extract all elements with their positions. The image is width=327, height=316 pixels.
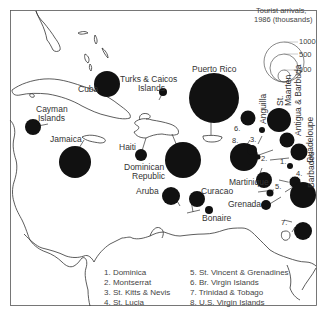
- bubble-puerto-rico: [189, 73, 239, 123]
- bahamas-island: [102, 48, 108, 58]
- label-haiti: Haiti: [119, 142, 136, 152]
- hispaniola-coastline: [134, 119, 179, 138]
- isle-of-youth: [30, 94, 35, 98]
- marker-8: 8.: [232, 136, 238, 145]
- bahamas-island: [85, 54, 89, 63]
- key-item: 6. Br. Virgin Islands: [190, 278, 259, 287]
- bubble-br-virgin-islands: [241, 111, 256, 126]
- key-item: 2. Montserrat: [104, 278, 152, 287]
- bubble-st-maarten: [267, 108, 291, 132]
- puerto-rico-island: [203, 135, 222, 142]
- legend-title-line2: 1986 (thousands): [254, 15, 313, 24]
- label-grenada: Grenada: [228, 199, 261, 209]
- jamaica-island: [82, 135, 105, 143]
- key-item: 1. Dominica: [104, 268, 147, 277]
- bahamas-island: [94, 35, 97, 44]
- marker-2: 2.: [261, 154, 267, 163]
- label-dominican-line2: Republic: [132, 171, 166, 181]
- caribbean-islands-coast: [287, 265, 300, 300]
- marker-1: 1.: [280, 157, 286, 166]
- legend-value-1000: 1000: [299, 37, 316, 46]
- marker-6: 6.: [234, 124, 240, 133]
- label-anguilla: Anguilla: [258, 93, 268, 124]
- label-cayman-line2: Islands: [38, 113, 65, 123]
- venezuela-gulf: [150, 227, 163, 238]
- florida-coastline: [36, 11, 60, 52]
- trinidad-island: [281, 231, 290, 240]
- numbered-key: 1. Dominica 2. Montserrat 3. St. Kitts &…: [104, 268, 289, 307]
- label-bonaire: Bonaire: [202, 213, 232, 223]
- label-barbados: Barbados: [306, 152, 316, 188]
- bubble-grenada: [261, 200, 271, 210]
- label-puerto-rico: Puerto Rico: [192, 64, 237, 74]
- caribbean-tourism-map: Tourist arrivals, 1986 (thousands) 1000 …: [0, 0, 327, 316]
- bubble-dominica: [287, 163, 293, 169]
- key-item: 5. St. Vincent & Grenadines: [190, 268, 289, 277]
- label-turks-line2: Islands: [138, 83, 165, 93]
- bubble-jamaica: [59, 146, 91, 178]
- marker-5: 5.: [275, 182, 281, 191]
- bubble-anguilla: [259, 127, 265, 133]
- marker-4: 4.: [296, 169, 302, 178]
- label-jamaica: Jamaica: [50, 134, 82, 144]
- bubble-st-vincent: [267, 190, 274, 197]
- bubble-aruba: [162, 187, 180, 205]
- label-aruba: Aruba: [136, 186, 159, 196]
- bahamas-island: [89, 64, 91, 71]
- map-frame: [11, 11, 317, 306]
- bubble-montserrat: [256, 155, 261, 160]
- bubble-dominican-republic: [165, 142, 201, 178]
- marker-7: 7.: [281, 218, 287, 227]
- label-curacao: Curacao: [201, 186, 233, 196]
- marker-3: 3.: [250, 135, 256, 144]
- tourist-bubbles: [25, 71, 316, 240]
- legend-value-500: 500: [299, 50, 312, 59]
- bubble-st-kitts-nevis: [247, 145, 257, 155]
- legend-title-line1: Tourist arrivals,: [256, 6, 306, 15]
- key-item: 3. St. Kitts & Nevis: [104, 288, 170, 297]
- bubble-trinidad-tobago: [294, 222, 312, 240]
- label-martinique: Martinique: [229, 177, 269, 187]
- bahamas-island: [78, 32, 88, 35]
- bubble-haiti: [135, 149, 147, 161]
- label-st-maarten-line2: Maarten: [283, 75, 293, 106]
- key-item: 8. U.S. Virgin Islands: [190, 298, 265, 307]
- label-antigua: Antigua & Barbuda: [293, 64, 303, 136]
- label-cuba: Cuba: [78, 84, 99, 94]
- key-item: 7. Trinidad & Tobago: [190, 288, 264, 297]
- key-item: 4. St. Lucia: [104, 298, 145, 307]
- guyana-coast: [302, 268, 316, 290]
